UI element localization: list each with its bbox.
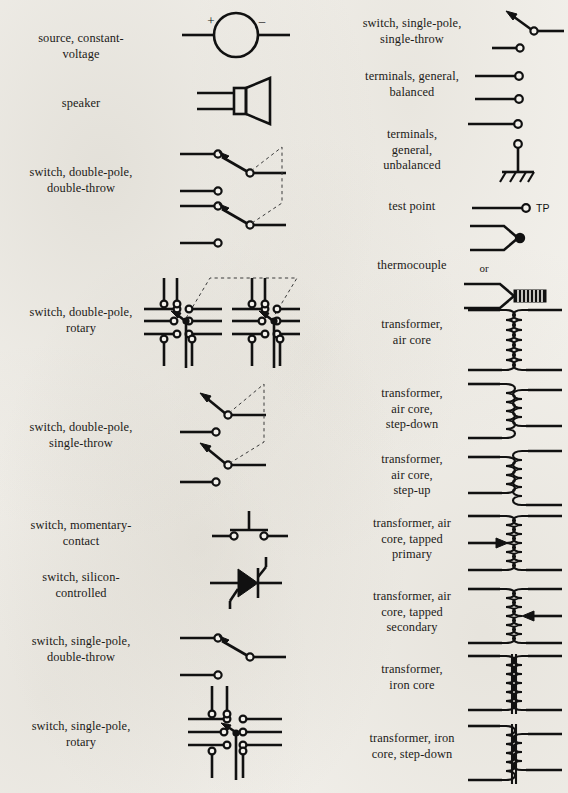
symbol-switch-momentary	[210, 509, 290, 545]
symbol-switch-dpdt	[178, 145, 290, 253]
symbol-switch-spst	[484, 8, 566, 56]
symbol-voltage-source: + –	[180, 8, 292, 60]
symbol-speaker	[196, 76, 294, 126]
entry-label: source, constant-voltage	[6, 31, 156, 62]
symbol-transformer-air-tapped-primary	[466, 512, 564, 582]
entry-label: transformer, aircore, tappedprimary	[346, 516, 478, 563]
entry-label: terminals, general,balanced	[346, 69, 478, 100]
entry-label: switch, silicon-controlled	[6, 570, 156, 601]
entry-label: switch, double-pole,double-throw	[6, 165, 156, 196]
entry-label: switch, double-pole,single-throw	[6, 420, 156, 451]
entry-label: speaker	[6, 96, 156, 112]
symbol-transformer-air-core	[466, 306, 564, 378]
left-column: source, constant-voltage + – speaker swi…	[0, 0, 300, 793]
svg-text:–: –	[258, 13, 266, 28]
entry-label: switch, single-pole,double-throw	[6, 634, 156, 665]
svg-text:+: +	[207, 13, 214, 28]
entry-label: switch, single-pole,rotary	[6, 719, 156, 750]
entry-label: transformer,iron core	[346, 662, 478, 693]
symbol-terminals-unbalanced	[466, 116, 552, 188]
test-point-annotation: TP	[536, 202, 549, 214]
entry-label: transformer,air core,step-up	[346, 452, 478, 499]
symbol-terminals-balanced	[473, 66, 551, 110]
symbol-test-point: TP	[470, 196, 562, 220]
symbol-switch-sp-rotary	[186, 678, 302, 788]
entry-label: transformer,air core	[346, 317, 478, 348]
symbol-switch-spdt	[178, 626, 290, 686]
thermocouple-or-label: or	[479, 262, 489, 274]
entry-label: switch, momentary-contact	[6, 518, 156, 549]
symbol-thermocouple: or	[456, 222, 562, 312]
right-column: switch, single-pole,single-throw termina…	[300, 0, 568, 793]
symbol-transformer-iron-core	[466, 652, 564, 724]
symbol-transformer-air-step-down	[466, 380, 564, 442]
symbol-switch-scr	[208, 555, 284, 611]
symbol-transformer-iron-step-down	[466, 722, 564, 788]
symbol-switch-dp-rotary	[142, 268, 300, 378]
entry-label: transformer,air core,step-down	[346, 386, 478, 433]
symbol-transformer-air-tapped-secondary	[466, 585, 564, 655]
symbol-switch-dpst	[178, 382, 290, 494]
entry-label: test point	[346, 199, 478, 215]
entry-label: transformer, aircore, tappedsecondary	[346, 589, 478, 636]
symbol-transformer-air-step-up	[466, 447, 564, 509]
entry-label: switch, double-pole,rotary	[6, 305, 156, 336]
entry-label: terminals,general,unbalanced	[346, 127, 478, 174]
entry-label: transformer, ironcore, step-down	[346, 731, 478, 762]
entry-label: switch, single-pole,single-throw	[346, 16, 478, 47]
